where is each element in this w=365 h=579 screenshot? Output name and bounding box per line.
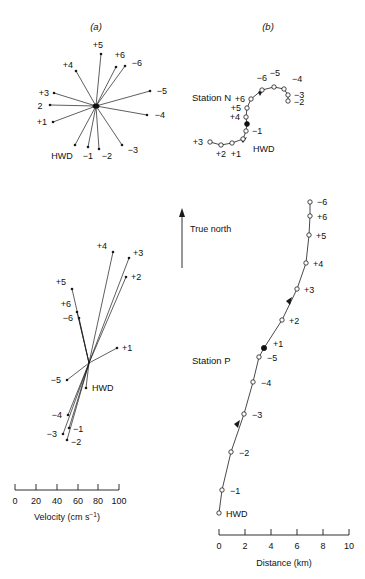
distance-tick-label-2: 2 bbox=[242, 541, 247, 551]
station-n-track-label-m1: −1 bbox=[252, 126, 262, 136]
station-n-track-label-m4: −4 bbox=[292, 74, 302, 84]
distance-axis-title: Distance (km) bbox=[256, 558, 312, 568]
station-n-vector-label-m3: −3 bbox=[128, 145, 138, 155]
distance-tick-label-8: 8 bbox=[320, 541, 325, 551]
distance-axis: 0 2 4 6 8 10 Distance (km) bbox=[216, 529, 354, 568]
station-p-track-label-m2: −2 bbox=[239, 448, 249, 458]
station-p-vector-label-m4: −4 bbox=[52, 410, 62, 420]
station-p-track-label-p1: +1 bbox=[273, 339, 283, 349]
station-p-track-label-p3: +3 bbox=[304, 285, 314, 295]
station-p-node-m2 bbox=[229, 450, 233, 454]
distance-tick-label-0: 0 bbox=[216, 541, 221, 551]
station-p-node-p2 bbox=[280, 318, 284, 322]
station-p-track-label-hwd: HWD bbox=[226, 509, 248, 519]
station-n-node-p2 bbox=[219, 143, 223, 147]
station-p-vector-label-m2: −2 bbox=[71, 437, 81, 447]
station-n-track-label-p4: +4 bbox=[230, 112, 240, 122]
station-p-vector-label-p2: +2 bbox=[131, 272, 141, 282]
true-north-indicator: True north bbox=[179, 208, 231, 268]
velocity-tick-label-40: 40 bbox=[52, 496, 62, 506]
station-n-node-p6 bbox=[249, 97, 253, 101]
station-p-vector-label-p5: +5 bbox=[56, 277, 66, 287]
station-n-vector-label-m2: −2 bbox=[102, 151, 112, 161]
station-n-vector-label-m4: −4 bbox=[155, 110, 165, 120]
station-p-node-m1 bbox=[220, 488, 224, 492]
velocity-tick-label-80: 80 bbox=[93, 496, 103, 506]
distance-tick-label-10: 10 bbox=[344, 541, 354, 551]
velocity-tick-label-20: 20 bbox=[31, 496, 41, 506]
station-p-vector-label-m1: −1 bbox=[73, 424, 83, 434]
figure-canvas: (a) (b) bbox=[0, 0, 365, 579]
station-p-vector-label-m5: −5 bbox=[51, 375, 61, 385]
station-p-node-m5 bbox=[257, 355, 261, 359]
station-p-node-m6 bbox=[308, 200, 312, 204]
station-n-node-m3 bbox=[286, 93, 290, 97]
station-n-track-label-hwd: HWD bbox=[253, 144, 275, 154]
station-n-vector-label-hwd: HWD bbox=[51, 151, 73, 161]
station-n-vector-label-p5: +5 bbox=[93, 40, 103, 50]
distance-tick-label-4: 4 bbox=[268, 541, 273, 551]
station-p-node-hwd bbox=[217, 511, 221, 515]
station-p-track-label-p2: +2 bbox=[289, 316, 299, 326]
velocity-axis-title: Velocity (cm s−1) bbox=[34, 511, 100, 523]
station-n-node-p4 bbox=[244, 115, 248, 119]
station-p-node-p5 bbox=[307, 233, 311, 237]
station-n-vector-label-p2: 2 bbox=[37, 101, 42, 111]
station-p-vector-lines bbox=[63, 252, 129, 440]
station-p-vector-fan: HWD −1 −2 −3 −4 −5 −6 +6 +5 +4 +3 +2 +1 bbox=[47, 241, 144, 447]
figure-root: (a) (b) bbox=[0, 0, 365, 579]
velocity-tick-label-60: 60 bbox=[73, 496, 83, 506]
station-p-node-p4 bbox=[304, 261, 308, 265]
station-n-vector-label-p3: +3 bbox=[39, 88, 49, 98]
velocity-axis: 0 20 40 60 80 100 Velocity (cm s−1) bbox=[12, 484, 126, 522]
station-p-track-label-m3: −3 bbox=[252, 410, 262, 420]
station-n-node-p3 bbox=[208, 140, 212, 144]
station-p-node-p3 bbox=[295, 287, 299, 291]
station-p-vector-label-m3: −3 bbox=[47, 429, 57, 439]
station-n-node-m6 bbox=[260, 88, 264, 92]
station-p-track-label-p5: +5 bbox=[316, 231, 326, 241]
station-n-node-m4 bbox=[282, 87, 286, 91]
station-p-vector-label-p1: +1 bbox=[122, 343, 132, 353]
station-p-track-arrow-1 bbox=[234, 420, 240, 428]
station-p-node-m4 bbox=[251, 380, 255, 384]
station-n-node-m1 bbox=[244, 129, 248, 133]
station-n-vector-label-m6: −6 bbox=[132, 58, 142, 68]
velocity-tick-label-0: 0 bbox=[12, 496, 17, 506]
station-p-track-label-m6: −6 bbox=[317, 197, 327, 207]
station-n-vector-fan: HWD −1 −2 −3 −4 −5 −6 +6 +5 +4 +3 2 +1 bbox=[37, 40, 167, 161]
station-p-vector-label-p3: +3 bbox=[133, 248, 143, 258]
station-p-node-origin bbox=[261, 345, 266, 350]
station-n-node-p5 bbox=[245, 106, 249, 110]
station-p-vector-label-p4: +4 bbox=[97, 241, 107, 251]
true-north-arrow-head-icon bbox=[179, 208, 185, 217]
station-n-track-label-p2: +2 bbox=[216, 149, 226, 159]
station-p-track-label-p6: +6 bbox=[317, 212, 327, 222]
station-p-track-polyline bbox=[219, 202, 310, 513]
station-n-vector-label-p6: +6 bbox=[115, 50, 125, 60]
station-p-node-p6 bbox=[308, 214, 312, 218]
station-n-track: +3 +2 +1 HWD −1 +4 +5 +6 −6 −5 −4 −3 −2 bbox=[193, 68, 305, 159]
station-n-node-hwd bbox=[241, 137, 245, 141]
station-n-track-label-m5: −5 bbox=[270, 68, 280, 78]
true-north-label: True north bbox=[190, 224, 231, 234]
station-n-vector-label-m1: −1 bbox=[83, 151, 93, 161]
station-n-vector-label-p1: +1 bbox=[37, 117, 47, 127]
station-n-node-m2 bbox=[286, 99, 290, 103]
station-p-node-m3 bbox=[242, 412, 246, 416]
panel-a-letter: (a) bbox=[90, 21, 102, 32]
station-n-track-label-p6: +6 bbox=[235, 94, 245, 104]
station-n-node-p1 bbox=[230, 141, 234, 145]
station-p-vector-label-p6: +6 bbox=[61, 299, 71, 309]
station-p-track-label-m5: −5 bbox=[267, 353, 277, 363]
panel-b-letter: (b) bbox=[262, 21, 274, 32]
station-n-vector-label-m5: −5 bbox=[157, 86, 167, 96]
station-p-track-label-m4: −4 bbox=[261, 378, 271, 388]
station-n-node-origin bbox=[245, 122, 250, 127]
velocity-tick-label-100: 100 bbox=[111, 496, 126, 506]
distance-tick-label-6: 6 bbox=[294, 541, 299, 551]
station-p-track-label-m1: −1 bbox=[230, 486, 240, 496]
station-p-track-label-p4: +4 bbox=[313, 259, 323, 269]
station-p-vector-label-hwd: HWD bbox=[92, 383, 114, 393]
station-n-track-label-p1: +1 bbox=[231, 149, 241, 159]
